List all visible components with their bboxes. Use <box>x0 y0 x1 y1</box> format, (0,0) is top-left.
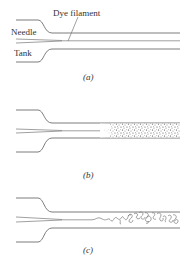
panel-b: (b) <box>16 110 180 180</box>
reynolds-experiment-diagram: Dye filament Needle Tank (a) <box>0 0 189 257</box>
tank-bottom-wall <box>16 228 180 242</box>
needle-label: Needle <box>11 27 36 37</box>
tank-label: Tank <box>14 48 32 58</box>
needle <box>16 129 62 133</box>
tank-top-wall <box>16 110 180 123</box>
tank-bottom-wall <box>16 138 180 152</box>
dye-filament-label: Dye filament <box>53 8 101 18</box>
needle <box>16 217 62 222</box>
wavy-dye-filament <box>62 215 131 221</box>
tank-bottom-wall <box>16 49 180 62</box>
tank-top-wall <box>16 20 180 33</box>
panel-c: (c) <box>16 198 180 255</box>
diffusion-fade <box>100 124 116 138</box>
needle <box>16 39 62 43</box>
dye-filament-leader <box>68 17 78 41</box>
caption-b: (b) <box>83 170 94 180</box>
panel-a: Dye filament Needle Tank (a) <box>11 8 180 82</box>
caption-c: (c) <box>83 245 93 255</box>
eddies <box>120 212 178 224</box>
tank-top-wall <box>16 198 180 212</box>
caption-a: (a) <box>83 72 94 82</box>
